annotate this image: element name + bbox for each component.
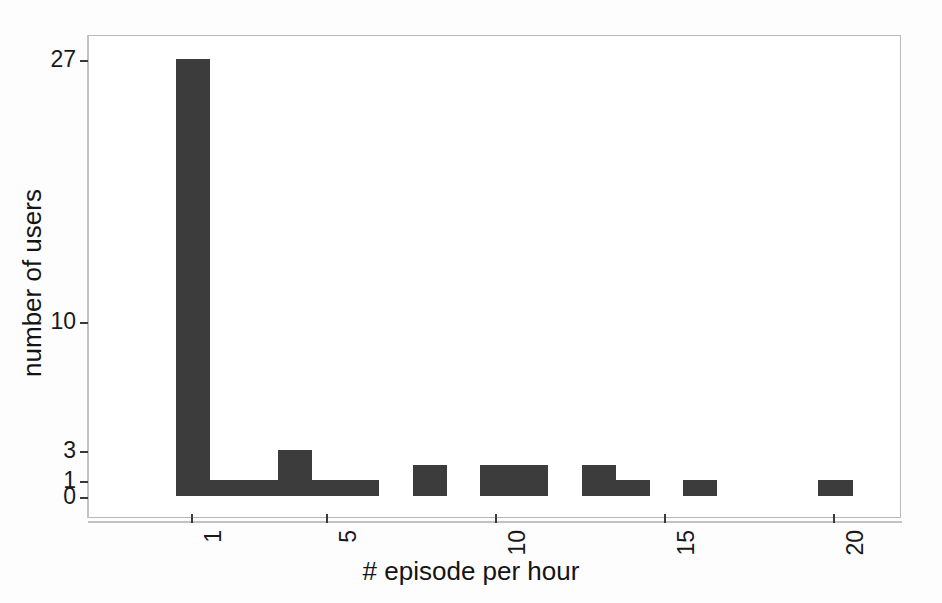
x-axis-tick-label: 20 — [844, 530, 867, 556]
bar — [210, 480, 244, 496]
plot-area — [88, 35, 901, 518]
x-axis-tick-label: 1 — [202, 530, 225, 543]
bar — [582, 465, 616, 496]
x-axis-tick — [326, 514, 328, 523]
y-axis-tick — [80, 451, 88, 453]
y-axis-tick-label: 10 — [50, 310, 76, 333]
bar — [278, 450, 312, 496]
x-axis-tick — [191, 514, 193, 523]
x-axis-tick — [495, 514, 497, 523]
bar — [413, 465, 447, 496]
y-axis-tick — [80, 322, 88, 324]
x-axis-tick — [664, 514, 666, 523]
x-axis-title: # episode per hour — [0, 556, 942, 586]
bar — [683, 480, 717, 496]
y-axis-tick-label: 27 — [50, 48, 76, 71]
histogram-figure: 0131027 15101520 # episode per hour numb… — [0, 0, 942, 603]
bar — [616, 480, 650, 496]
bars-layer — [89, 36, 900, 517]
y-axis-tick — [80, 497, 88, 499]
x-axis-tick — [833, 514, 835, 523]
x-axis-tick-label: 15 — [675, 530, 698, 556]
y-axis-tick — [80, 481, 88, 483]
bar — [176, 59, 210, 496]
bar — [244, 480, 278, 496]
x-axis-tick-label: 10 — [506, 530, 529, 556]
y-axis-title: number of users — [17, 133, 47, 433]
bar — [345, 480, 379, 496]
bar — [818, 480, 852, 496]
bar — [514, 465, 548, 496]
bar — [480, 465, 514, 496]
y-axis-line — [87, 35, 89, 518]
x-axis-tick-label: 5 — [337, 530, 360, 543]
y-axis-tick — [80, 60, 88, 62]
bar — [311, 480, 345, 496]
y-axis-tick-label: 1 — [63, 469, 76, 492]
y-axis-tick-label: 3 — [63, 439, 76, 462]
